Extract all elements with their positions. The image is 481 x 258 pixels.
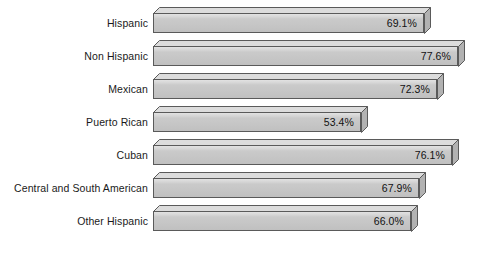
chart-row: Puerto Rican 53.4% — [0, 107, 481, 133]
bar-front-face — [153, 145, 452, 165]
bar-side-face — [419, 172, 426, 199]
bar-central-and-south-american: 67.9% — [153, 178, 419, 198]
bar-front-face — [153, 79, 437, 99]
bar-side-face — [411, 205, 418, 232]
value-label: 53.4% — [324, 112, 354, 132]
bar-side-face — [437, 73, 444, 100]
bar-front-face — [153, 178, 419, 198]
category-label: Cuban — [0, 145, 148, 165]
bar-other-hispanic: 66.0% — [153, 211, 411, 231]
bar-cuban: 76.1% — [153, 145, 452, 165]
bar-side-face — [452, 139, 459, 166]
value-label: 77.6% — [421, 46, 451, 66]
chart-row: Mexican 72.3% — [0, 74, 481, 100]
bar-side-face — [361, 106, 368, 133]
chart-row: Cuban 76.1% — [0, 140, 481, 166]
chart-row: Other Hispanic 66.0% — [0, 206, 481, 232]
bar-puerto-rican: 53.4% — [153, 112, 361, 132]
bar-front-face — [153, 211, 411, 231]
bar-front-face — [153, 46, 458, 66]
category-label: Central and South American — [0, 178, 148, 198]
chart-row: Non Hispanic 77.6% — [0, 41, 481, 67]
value-label: 69.1% — [387, 13, 417, 33]
bar-front-face — [153, 13, 424, 33]
value-label: 67.9% — [382, 178, 412, 198]
chart-row: Hispanic 69.1% — [0, 8, 481, 34]
bar-side-face — [458, 40, 465, 67]
category-label: Non Hispanic — [0, 46, 148, 66]
bar-hispanic: 69.1% — [153, 13, 424, 33]
bar-non-hispanic: 77.6% — [153, 46, 458, 66]
value-label: 76.1% — [415, 145, 445, 165]
bar-mexican: 72.3% — [153, 79, 437, 99]
category-label: Other Hispanic — [0, 211, 148, 231]
bar-chart: Hispanic 69.1% Non Hispanic 77.6% Mexica — [0, 0, 481, 258]
value-label: 72.3% — [400, 79, 430, 99]
category-label: Hispanic — [0, 13, 148, 33]
bar-side-face — [424, 7, 431, 34]
chart-row: Central and South American 67.9% — [0, 173, 481, 199]
value-label: 66.0% — [374, 211, 404, 231]
category-label: Puerto Rican — [0, 112, 148, 132]
category-label: Mexican — [0, 79, 148, 99]
